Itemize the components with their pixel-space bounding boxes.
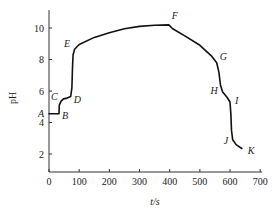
point-label-a: A <box>37 108 45 119</box>
y-axis-title: pH <box>7 92 18 104</box>
x-tick-label: 200 <box>102 176 117 187</box>
ph-time-chart: 0100200300400500600700 246810 ABCDEFGHIJ… <box>0 0 279 213</box>
point-label-c: C <box>51 91 58 102</box>
x-tick-label: 700 <box>253 176 268 187</box>
x-tick-label: 100 <box>72 176 87 187</box>
point-label-b: B <box>62 110 68 121</box>
point-label-i: I <box>234 95 239 106</box>
point-label-k: K <box>247 145 256 156</box>
axes <box>49 10 262 172</box>
y-tick-label: 8 <box>39 54 44 65</box>
point-label-j: J <box>224 135 229 146</box>
point-labels: ABCDEFGHIJK <box>37 10 256 157</box>
point-label-h: H <box>209 85 218 96</box>
y-tick-label: 6 <box>39 86 44 97</box>
y-tick-label: 10 <box>34 23 44 34</box>
y-tick-label: 2 <box>39 149 44 160</box>
point-label-d: D <box>73 94 82 105</box>
point-label-f: F <box>171 10 179 21</box>
chart-canvas: 0100200300400500600700 246810 ABCDEFGHIJ… <box>0 0 279 213</box>
x-tick-label: 600 <box>223 176 238 187</box>
x-tick-label: 400 <box>162 176 177 187</box>
point-label-g: G <box>220 51 227 62</box>
x-tick-label: 300 <box>132 176 147 187</box>
x-axis-title: t/s <box>150 196 160 207</box>
point-label-e: E <box>63 38 70 49</box>
x-tick-label: 0 <box>47 176 52 187</box>
x-tick-label: 500 <box>192 176 207 187</box>
